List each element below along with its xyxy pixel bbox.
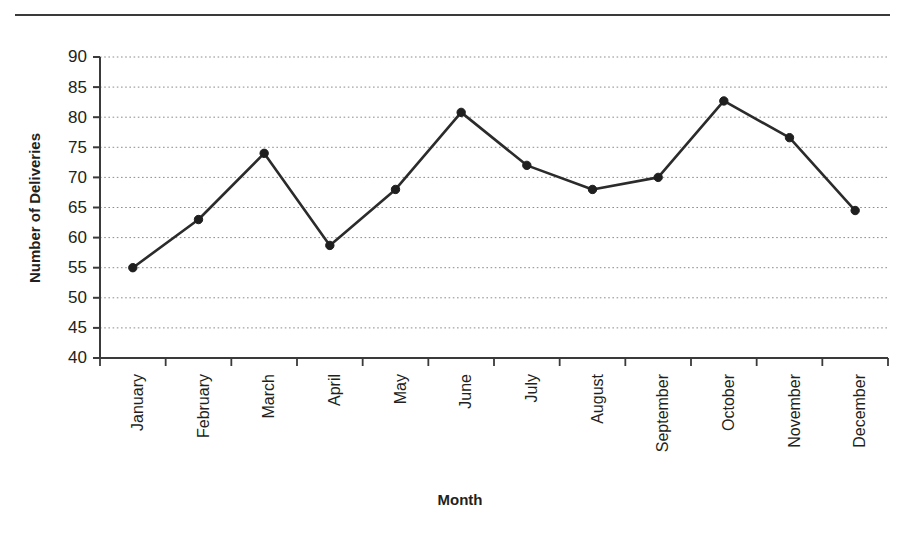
chart-figure: 4045505560657075808590 JanuaryFebruaryMa… xyxy=(0,0,920,540)
data-series-line xyxy=(133,101,855,268)
data-point-marker xyxy=(260,149,268,157)
x-axis-tick-label: December xyxy=(851,373,868,447)
x-axis-tick-label: February xyxy=(195,374,212,438)
data-point-marker xyxy=(129,264,137,272)
data-point-marker xyxy=(654,173,662,181)
y-axis-tick-label: 55 xyxy=(68,258,87,277)
y-axis-tick-label: 70 xyxy=(68,168,87,187)
y-axis-tick-label: 40 xyxy=(68,348,87,367)
y-axis-tick-labels: 4045505560657075808590 xyxy=(68,47,87,367)
x-axis-tick-label: April xyxy=(326,374,343,406)
data-point-marker xyxy=(851,206,859,214)
data-point-marker xyxy=(523,161,531,169)
x-axis-tick-label: November xyxy=(786,373,803,447)
y-axis-tick-label: 50 xyxy=(68,288,87,307)
x-axis-tick-labels: JanuaryFebruaryMarchAprilMayJuneJulyAugu… xyxy=(129,373,868,452)
data-point-marker xyxy=(457,108,465,116)
x-axis-tick-label: June xyxy=(457,374,474,409)
x-axis-title: Month xyxy=(438,491,483,508)
data-point-marker xyxy=(720,97,728,105)
y-axis-tick-label: 60 xyxy=(68,228,87,247)
gridlines xyxy=(100,57,888,328)
data-point-marker xyxy=(785,133,793,141)
y-axis-tick-label: 75 xyxy=(68,138,87,157)
y-axis-tick-label: 45 xyxy=(68,318,87,337)
x-axis-tick-label: August xyxy=(589,373,606,423)
y-axis-ticks xyxy=(93,57,100,358)
data-point-markers xyxy=(129,97,860,272)
y-axis-tick-label: 65 xyxy=(68,198,87,217)
data-point-marker xyxy=(588,185,596,193)
x-axis-tick-label: October xyxy=(720,373,737,431)
data-point-marker xyxy=(391,185,399,193)
data-point-marker xyxy=(326,241,334,249)
x-axis-tick-label: May xyxy=(392,374,409,404)
x-axis-tick-label: July xyxy=(523,374,540,402)
y-axis-title: Number of Deliveries xyxy=(26,133,43,283)
x-axis-tick-label: January xyxy=(129,374,146,431)
y-axis-tick-label: 85 xyxy=(68,78,87,97)
line-chart-canvas: 4045505560657075808590 JanuaryFebruaryMa… xyxy=(0,0,920,540)
x-axis-tick-label: March xyxy=(260,374,277,418)
y-axis-tick-label: 80 xyxy=(68,108,87,127)
x-axis-ticks xyxy=(100,358,888,366)
y-axis-tick-label: 90 xyxy=(68,47,87,66)
x-axis-tick-label: September xyxy=(654,373,671,452)
data-point-marker xyxy=(194,215,202,223)
